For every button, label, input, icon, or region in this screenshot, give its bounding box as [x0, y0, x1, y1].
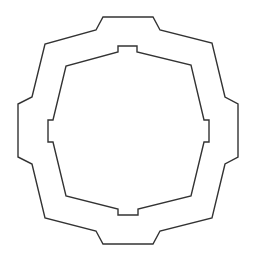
diagram-svg [0, 0, 254, 263]
outer-octagon-shape [18, 17, 238, 244]
inner-octagon-shape [48, 46, 209, 215]
diagram-canvas [0, 0, 254, 263]
